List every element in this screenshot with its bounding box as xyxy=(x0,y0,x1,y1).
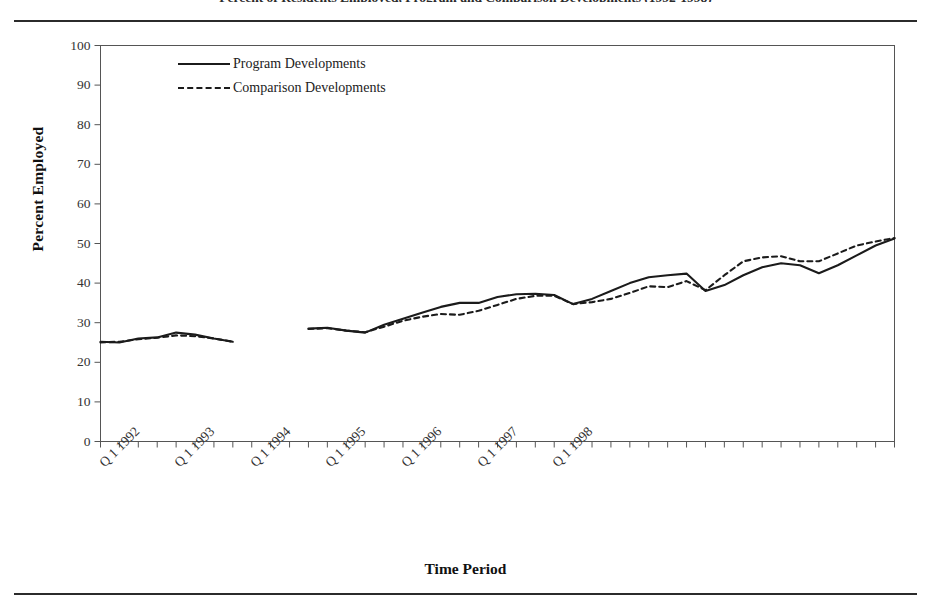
series-lines xyxy=(101,238,895,343)
chart-legend: Program Developments Comparison Developm… xyxy=(178,52,386,100)
y-tick-label: 90 xyxy=(47,78,91,92)
legend-label-comparison: Comparison Developments xyxy=(233,80,386,96)
legend-label-program: Program Developments xyxy=(233,56,366,72)
x-axis-title: Time Period xyxy=(0,560,931,578)
chart-canvas xyxy=(0,0,931,615)
y-tick-label: 60 xyxy=(47,197,91,211)
y-tick-label: 100 xyxy=(47,39,91,53)
y-axis-tick-marks xyxy=(95,46,101,442)
legend-entry-program: Program Developments xyxy=(178,52,386,76)
plot-area: Percent Employed Time Period 10090807060… xyxy=(0,0,931,615)
y-tick-label: 40 xyxy=(47,276,91,290)
series-line-comparison xyxy=(101,335,233,342)
y-tick-label: 10 xyxy=(47,395,91,409)
series-line-comparison xyxy=(309,238,895,332)
y-tick-label: 30 xyxy=(47,316,91,330)
y-axis-title: Percent Employed xyxy=(29,89,47,289)
plot-frame xyxy=(101,46,895,442)
y-tick-label: 70 xyxy=(47,157,91,171)
legend-entry-comparison: Comparison Developments xyxy=(178,76,386,100)
figure-container: Percent of Residents Employed, Program a… xyxy=(0,0,931,615)
legend-line-sample-dashed xyxy=(178,87,230,89)
y-tick-label: 20 xyxy=(47,355,91,369)
series-line-program xyxy=(309,238,895,332)
y-tick-label: 80 xyxy=(47,118,91,132)
legend-line-sample-solid xyxy=(178,63,230,65)
y-tick-label: 50 xyxy=(47,237,91,251)
y-tick-label: 0 xyxy=(47,435,91,449)
